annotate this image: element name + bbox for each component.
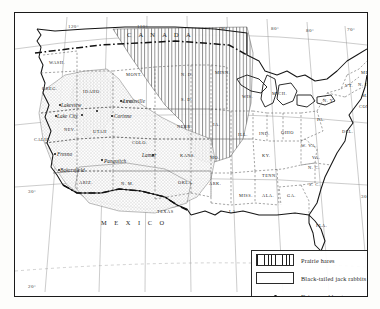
hunt-dot-marker — [120, 100, 122, 102]
legend-row-drives-and-hunts: Drives and hunts — [252, 287, 368, 297]
hunt-dot-marker — [58, 169, 60, 171]
legend-row-prairie-hares: Prairie hares — [252, 251, 368, 269]
distribution-map-figure: C A N A D A M E X I C O WASH.OREG.IDAHOM… — [0, 0, 380, 309]
stipple-swatch-icon — [256, 272, 294, 284]
legend-row-jack-rabbits: Black-tailed jack rabbits — [252, 269, 368, 287]
legend-label-jack-rabbits: Black-tailed jack rabbits — [301, 275, 366, 282]
map-frame: C A N A D A M E X I C O WASH.OREG.IDAHOM… — [14, 12, 368, 297]
hunt-dot-marker — [111, 115, 113, 117]
legend-label-drives-and-hunts: Drives and hunts — [301, 293, 346, 298]
dot-symbol-icon — [256, 295, 294, 298]
hunt-dot-marker — [59, 104, 61, 106]
legend-label-prairie-hares: Prairie hares — [301, 257, 335, 264]
vertical-hatch-swatch-icon — [256, 254, 294, 266]
hunt-dot-marker — [55, 115, 57, 117]
map-legend: Prairie hares Black-tailed jack rabbits … — [251, 250, 368, 297]
